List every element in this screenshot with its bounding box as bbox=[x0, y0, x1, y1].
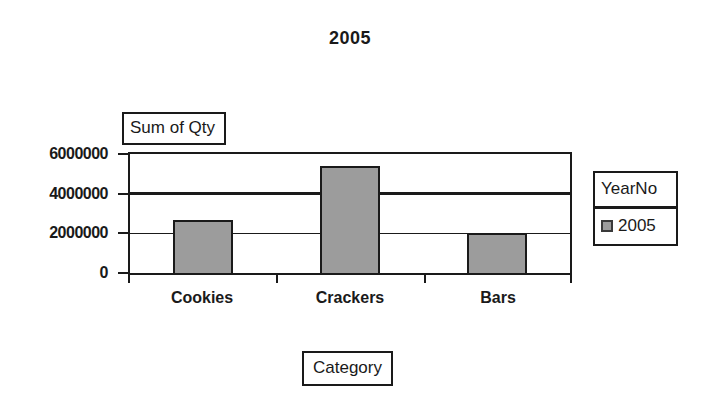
x-axis-tick-mark bbox=[570, 275, 572, 283]
y-axis-tick-mark bbox=[118, 232, 128, 234]
category-axis-title-box: Category bbox=[302, 351, 393, 386]
bar-cookies bbox=[173, 220, 233, 273]
y-axis-tick-label-6000000: 6000000 bbox=[13, 145, 108, 163]
value-axis-title-box: Sum of Qty bbox=[122, 112, 226, 145]
y-axis-tick-mark bbox=[118, 272, 128, 274]
legend-title: YearNo bbox=[595, 173, 676, 206]
y-axis-tick-label-4000000: 4000000 bbox=[13, 184, 108, 202]
pivot-bar-chart-figure: 2005 Sum of Qty YearNo 2005 Category 020… bbox=[0, 0, 712, 405]
category-label-cookies: Cookies bbox=[128, 289, 276, 307]
x-axis-tick-mark bbox=[128, 275, 130, 283]
x-axis-tick-mark bbox=[276, 275, 278, 283]
y-axis-tick-label-2000000: 2000000 bbox=[13, 224, 108, 242]
bar-bars bbox=[467, 233, 527, 273]
chart-title: 2005 bbox=[128, 28, 572, 49]
plot-area bbox=[128, 152, 572, 275]
category-label-crackers: Crackers bbox=[276, 289, 424, 307]
y-axis-tick-label-0: 0 bbox=[13, 264, 108, 282]
y-axis-tick-mark bbox=[118, 193, 128, 195]
category-label-bars: Bars bbox=[424, 289, 572, 307]
x-axis-tick-mark bbox=[424, 275, 426, 283]
legend-swatch-icon bbox=[601, 220, 613, 232]
legend-item: 2005 bbox=[595, 209, 676, 244]
bar-crackers bbox=[320, 166, 380, 273]
legend-item-label: 2005 bbox=[618, 216, 656, 236]
y-axis-tick-mark bbox=[118, 153, 128, 155]
legend: YearNo 2005 bbox=[593, 171, 678, 246]
